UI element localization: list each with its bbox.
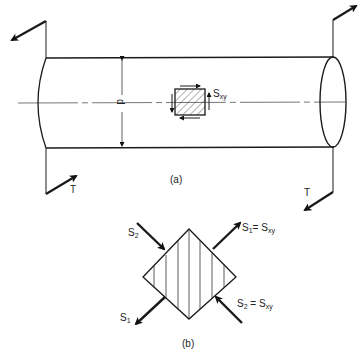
torque-right: T	[304, 6, 356, 210]
s2-top-arrow	[137, 223, 164, 249]
torque-left-top-arrow	[12, 21, 46, 40]
s1-right-arrow	[213, 223, 240, 249]
s2-top-label: S2	[128, 227, 139, 239]
torque-left-label: T	[70, 184, 76, 195]
diameter-dimension: d	[115, 60, 126, 146]
shaft-bottom-edge	[46, 147, 334, 148]
diameter-label: d	[115, 99, 126, 105]
torque-right-label: T	[304, 187, 310, 198]
shear-element: Sxy	[172, 86, 227, 118]
stress-square	[175, 89, 205, 115]
torque-left: T	[12, 21, 76, 195]
shaft-top-edge	[46, 57, 334, 58]
s1-left-arrow	[136, 297, 165, 324]
caption-a: (a)	[170, 174, 182, 185]
torque-right-top-arrow	[333, 6, 356, 20]
shear-label: Sxy	[213, 88, 227, 101]
torsion-diagram: d T T Sxy (a)	[0, 0, 362, 353]
s1-right-label: S1= Sxy	[242, 222, 275, 235]
caption-b: (b)	[182, 338, 194, 349]
s2-right-label: S2 = Sxy	[237, 298, 273, 311]
s1-left-label: S1	[120, 312, 131, 324]
